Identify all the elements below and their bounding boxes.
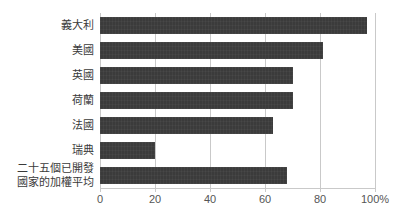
x-tick-label: 20 [149, 193, 161, 205]
bar-chart-screenshot: 義大利美國英國荷蘭法國瑞典二十五個已開發 國家的加權平均 02040608010… [0, 0, 410, 216]
bar [100, 142, 155, 159]
x-tick-label: 100% [361, 193, 389, 205]
bar-row: 二十五個已開發 國家的加權平均 [100, 167, 375, 184]
x-tick [210, 188, 211, 192]
bar [100, 92, 293, 109]
x-tick [320, 188, 321, 192]
bar [100, 67, 293, 84]
category-label: 二十五個已開發 國家的加權平均 [0, 162, 100, 189]
category-label: 英國 [0, 69, 100, 82]
category-label: 法國 [0, 119, 100, 132]
category-label: 美國 [0, 44, 100, 57]
plot-area: 義大利美國英國荷蘭法國瑞典二十五個已開發 國家的加權平均 [100, 13, 375, 188]
x-tick [375, 188, 376, 192]
x-tick-label: 80 [314, 193, 326, 205]
category-label: 荷蘭 [0, 94, 100, 107]
chart-title [72, 0, 342, 6]
gridline-100 [375, 13, 376, 188]
x-tick [265, 188, 266, 192]
bar [100, 42, 323, 59]
bar-row: 美國 [100, 42, 375, 59]
x-tick-label: 40 [204, 193, 216, 205]
bar-row: 義大利 [100, 17, 375, 34]
x-tick [155, 188, 156, 192]
x-tick-label: 0 [97, 193, 103, 205]
category-label: 義大利 [0, 19, 100, 32]
bar [100, 167, 287, 184]
bar-row: 英國 [100, 67, 375, 84]
x-axis-line [100, 188, 376, 189]
x-tick [100, 188, 101, 192]
bar [100, 117, 273, 134]
bar [100, 17, 367, 34]
category-label: 瑞典 [0, 144, 100, 157]
bar-row: 瑞典 [100, 142, 375, 159]
bar-row: 荷蘭 [100, 92, 375, 109]
x-tick-label: 60 [259, 193, 271, 205]
bar-row: 法國 [100, 117, 375, 134]
